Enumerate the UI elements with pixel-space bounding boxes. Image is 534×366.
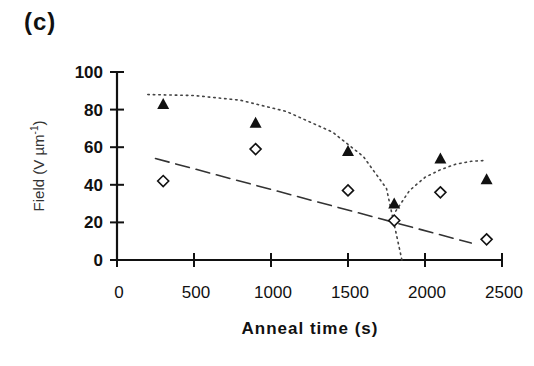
diamond-marker	[435, 187, 446, 198]
diamond-marker	[343, 185, 354, 196]
diamond-marker	[158, 176, 169, 187]
cropped-caption	[0, 356, 534, 366]
x-tick-label: 0	[114, 283, 123, 302]
y-tick-label: 100	[75, 63, 103, 82]
y-tick-label: 80	[84, 101, 103, 120]
y-tick-label: 20	[84, 213, 103, 232]
triangle-marker	[388, 198, 400, 209]
diamond-marker	[389, 215, 400, 226]
diamond-marker	[481, 234, 492, 245]
dotted-fit-left	[148, 95, 402, 260]
x-tick-label: 1000	[254, 283, 292, 302]
dotted-fit-right	[396, 160, 487, 211]
x-tick-label: 2000	[408, 283, 446, 302]
dashed-linear-fit	[156, 158, 472, 243]
data-points	[157, 98, 492, 245]
x-tick-label: 500	[182, 283, 210, 302]
triangle-marker	[434, 152, 446, 163]
fit-lines	[148, 95, 487, 260]
triangle-marker	[342, 145, 354, 156]
y-tick-label: 40	[84, 176, 103, 195]
x-tick-label: 2500	[485, 283, 523, 302]
triangle-marker	[250, 117, 262, 128]
x-tick-label: 1500	[331, 283, 369, 302]
diamond-marker	[250, 144, 261, 155]
y-tick-label: 0	[94, 251, 103, 270]
axes: 02040608010005001000150020002500	[75, 63, 523, 302]
x-axis-title: Anneal time (s)	[242, 319, 379, 338]
scatter-chart: 02040608010005001000150020002500 Anneal …	[0, 0, 534, 366]
y-axis-title: Field (V µm-1)	[29, 121, 47, 212]
triangle-marker	[481, 173, 493, 184]
y-tick-label: 60	[84, 138, 103, 157]
triangle-marker	[157, 98, 169, 109]
